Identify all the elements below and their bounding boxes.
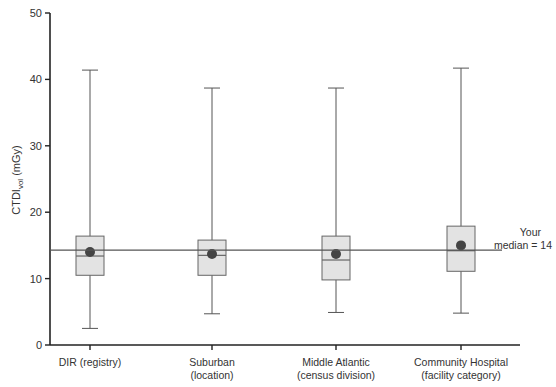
reference-label: Your bbox=[520, 226, 542, 238]
x-tick-label: Middle Atlantic bbox=[302, 356, 370, 368]
y-tick-label: 20 bbox=[30, 206, 42, 218]
box-0 bbox=[76, 70, 104, 328]
x-tick-label: Suburban bbox=[189, 356, 235, 368]
mean-dot bbox=[456, 240, 466, 250]
x-tick-label-sub: (location) bbox=[190, 369, 233, 381]
y-tick-label: 50 bbox=[30, 7, 42, 19]
box-3 bbox=[447, 68, 475, 313]
reference-label: median = 14 bbox=[494, 239, 552, 251]
y-tick-label: 0 bbox=[36, 339, 42, 351]
boxes bbox=[76, 68, 475, 328]
x-axis: DIR (registry)Suburban(location)Middle A… bbox=[50, 345, 520, 381]
box-plot-chart: 01020304050 DIR (registry)Suburban(locat… bbox=[0, 0, 556, 387]
y-axis-label: CTDIvol (mGy) bbox=[10, 145, 25, 215]
y-tick-label: 30 bbox=[30, 140, 42, 152]
box-2 bbox=[322, 88, 350, 312]
reference-line-group: Yourmedian = 14 bbox=[50, 226, 552, 251]
x-tick-label-sub: (facility category) bbox=[421, 369, 500, 381]
y-tick-label: 10 bbox=[30, 273, 42, 285]
box-1 bbox=[198, 88, 226, 314]
y-tick-label: 40 bbox=[30, 73, 42, 85]
mean-dot bbox=[85, 247, 95, 257]
y-axis: 01020304050 bbox=[30, 7, 50, 351]
x-tick-label: DIR (registry) bbox=[59, 356, 121, 368]
x-tick-label: Community Hospital bbox=[414, 356, 508, 368]
x-tick-label-sub: (census division) bbox=[297, 369, 375, 381]
